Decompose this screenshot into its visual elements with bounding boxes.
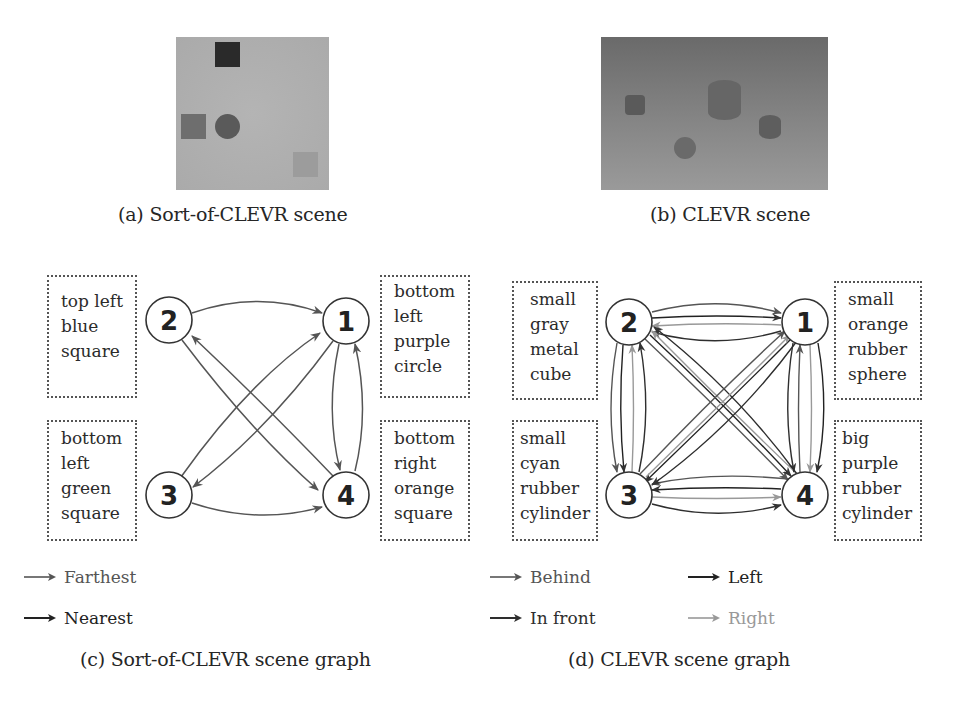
caption-panel-d: (d) CLEVR scene graph xyxy=(568,648,790,670)
legend-label: Farthest xyxy=(64,567,136,587)
edge-3-to-4 xyxy=(192,503,322,515)
arrow-icon xyxy=(490,572,522,582)
legend-nearest: Nearest xyxy=(24,608,133,628)
edge-2-to-1 xyxy=(192,302,322,314)
panel-c-nodes: 2 1 3 4 xyxy=(146,297,369,518)
svg-text:2: 2 xyxy=(620,308,638,338)
edge-2-to-4 xyxy=(182,340,318,490)
edge-1-to-3 xyxy=(193,341,333,487)
arrow-icon xyxy=(24,613,56,623)
arrow-icon xyxy=(688,613,720,623)
legend-label: In front xyxy=(530,608,596,628)
legend-label: Left xyxy=(728,567,762,587)
legend-behind: Behind xyxy=(490,567,591,587)
edge-4-to-1 xyxy=(355,344,363,471)
legend-label: Right xyxy=(728,608,775,628)
svg-text:2: 2 xyxy=(160,306,178,336)
node-3: 3 xyxy=(146,472,192,518)
arrow-icon xyxy=(490,613,522,623)
node-1-clevr: 1 xyxy=(782,299,828,345)
node-2: 2 xyxy=(146,297,192,343)
node-1: 1 xyxy=(323,298,369,344)
svg-text:4: 4 xyxy=(337,481,355,511)
legend-label: Nearest xyxy=(64,608,133,628)
svg-text:1: 1 xyxy=(337,307,355,337)
caption-panel-c: (c) Sort-of-CLEVR scene graph xyxy=(80,648,371,670)
edge-4-to-2 xyxy=(192,336,333,476)
node-4: 4 xyxy=(323,472,369,518)
svg-text:1: 1 xyxy=(796,308,814,338)
edge-3-to-1 xyxy=(181,333,320,477)
node-4-clevr: 4 xyxy=(782,472,828,518)
arrow-icon xyxy=(24,572,56,582)
scene-graphs: 2 1 3 4 2 1 3 4 xyxy=(0,0,968,712)
arrow-icon xyxy=(688,572,720,582)
svg-text:3: 3 xyxy=(620,481,638,511)
legend-right: Right xyxy=(688,608,775,628)
legend-label: Behind xyxy=(530,567,591,587)
edge-1-to-4 xyxy=(332,344,340,470)
node-2-clevr: 2 xyxy=(606,299,652,345)
svg-text:3: 3 xyxy=(160,481,178,511)
legend-left: Left xyxy=(688,567,762,587)
node-3-clevr: 3 xyxy=(606,472,652,518)
legend-farthest: Farthest xyxy=(24,567,136,587)
legend-in-front: In front xyxy=(490,608,596,628)
svg-text:4: 4 xyxy=(796,481,814,511)
